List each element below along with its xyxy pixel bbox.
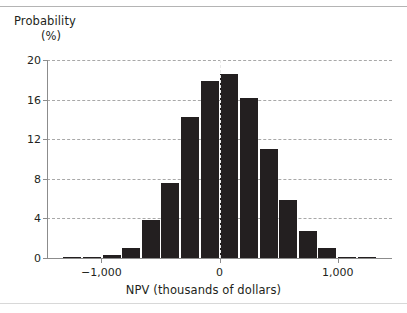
y-tick-label: 16 — [13, 93, 41, 106]
y-tick-label: 0 — [13, 252, 41, 265]
y-axis-title-line2: (%) — [14, 29, 88, 44]
histogram-bar — [299, 231, 317, 258]
y-tick-label: 4 — [13, 212, 41, 225]
y-axis-title: Probability (%) — [14, 14, 134, 44]
bottom-divider-rule — [0, 303, 407, 304]
histogram-bar — [122, 248, 140, 258]
y-tick-label: 8 — [13, 172, 41, 185]
histogram-bar — [161, 183, 179, 258]
y-tick-label: 12 — [13, 133, 41, 146]
histogram-bar — [279, 200, 297, 258]
x-axis-line — [47, 258, 392, 259]
y-tick-label: 20 — [13, 54, 41, 67]
histogram-bar — [260, 149, 278, 258]
x-tick-label: 1,000 — [322, 266, 354, 279]
zero-reference-line — [220, 60, 221, 258]
plot-area: 048121620 −1,00001,000 — [47, 60, 392, 258]
histogram-bar — [318, 248, 336, 258]
y-axis-line — [47, 60, 48, 258]
histogram-figure: Probability (%) NPV (thousands of dollar… — [0, 0, 407, 313]
x-axis-title: NPV (thousands of dollars) — [0, 283, 407, 297]
y-axis-title-line1: Probability — [14, 14, 76, 28]
histogram-bar — [240, 98, 258, 258]
histogram-bar — [142, 220, 160, 258]
top-divider-rule — [0, 6, 407, 7]
histogram-bar — [220, 74, 238, 258]
histogram-bar — [181, 117, 199, 258]
x-tick-label: −1,000 — [81, 266, 122, 279]
x-tick-label: 0 — [216, 266, 223, 279]
histogram-bar — [201, 81, 219, 258]
